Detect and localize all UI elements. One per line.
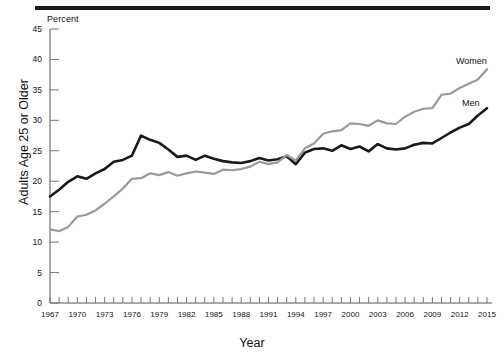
series-label-women: Women [456, 56, 487, 66]
series-line-women [50, 69, 487, 231]
chart-plot-area [0, 0, 504, 361]
series-label-men: Men [462, 98, 480, 108]
series-line-men [50, 108, 487, 196]
chart-container: Percent Adults Age 25 or Older Year 0510… [0, 0, 504, 361]
